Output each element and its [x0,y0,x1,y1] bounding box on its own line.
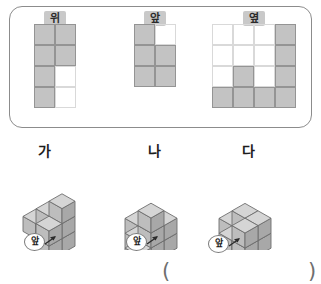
grid-cell [254,87,275,108]
grid-cell [233,66,254,87]
front-arrow-icon [24,233,58,255]
grid-cell [275,87,296,108]
answer-open-paren: ( [162,259,170,283]
view-front: 앞 [122,7,188,87]
grid-cell [275,24,296,45]
view-side-grid [212,24,296,108]
solid-da-front-marker: 앞 [208,235,242,257]
grid-cell [212,24,233,45]
grid-cell [34,45,55,66]
view-top-label-row: 위 [22,7,88,24]
grid-cell [254,45,275,66]
grid-cell [34,87,55,108]
grid-cell [134,45,155,66]
grid-cell [275,45,296,66]
grid-cell [233,87,254,108]
grid-cell [34,24,55,45]
grid-cell [275,66,296,87]
grid-cell [55,87,76,108]
grid-cell [254,66,275,87]
grid-cell [254,24,275,45]
solid-ga[interactable]: 가 앞 [18,140,125,260]
grid-cell [34,66,55,87]
grid-cell [212,66,233,87]
view-front-label-row: 앞 [122,7,188,24]
orthographic-views-panel: 위 앞 옆 [9,6,312,128]
solid-na-front-marker: 앞 [126,233,160,255]
grid-cell [55,45,76,66]
front-arrow-icon [126,233,160,255]
grid-cell [212,45,233,66]
solids-row: 가 앞 나 앞 다 앞 [0,140,321,260]
grid-cell [155,66,176,87]
grid-cell [55,66,76,87]
grid-cell [155,24,176,45]
grid-cell [134,24,155,45]
grid-cell [212,87,233,108]
view-side-label-row: 옆 [206,7,302,24]
view-side: 옆 [206,7,302,108]
grid-cell [134,66,155,87]
grid-cell [233,24,254,45]
answer-close-paren: ) [308,259,316,283]
front-arrow-icon [208,235,242,257]
view-top-grid [34,24,76,108]
answer-line: ( ) [0,262,321,284]
grid-cell [155,45,176,66]
view-top: 위 [22,7,88,108]
view-front-grid [134,24,176,87]
solid-da[interactable]: 다 앞 [214,140,321,260]
grid-cell [233,45,254,66]
solid-ga-front-marker: 앞 [24,233,58,255]
grid-cell [55,24,76,45]
